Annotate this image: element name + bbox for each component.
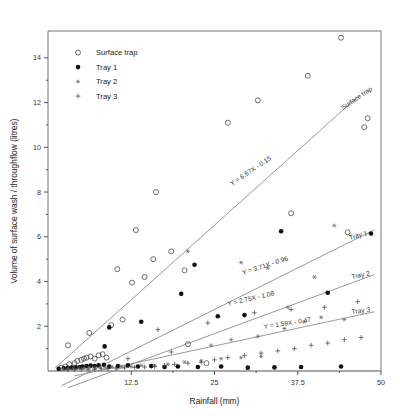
data-point [133,228,138,233]
data-point [239,261,243,265]
data-point [259,351,264,356]
data-point [339,35,344,40]
data-point [332,224,336,228]
data-point [107,325,112,330]
y-axis-title: Volume of surface wash / throughflow (li… [9,118,19,283]
x-tick-label: 37.5 [291,378,305,387]
equation-label: Y = 2.75X - 1.08 [227,289,275,307]
data-point [151,257,156,262]
data-point [362,125,367,130]
data-point [185,361,190,366]
data-point [225,120,230,125]
data-point [325,290,330,295]
x-tick-label: 50 [377,378,385,387]
x-axis-title: Rainfall (mm) [190,396,240,406]
series-tray-1 [56,229,373,371]
data-point [369,231,374,236]
data-point [182,268,187,273]
data-point [76,65,81,70]
line-end-label: Surface trap [340,85,375,112]
data-point [339,364,344,369]
data-point [199,360,204,365]
data-point [229,338,233,342]
legend-label: Tray 1 [96,63,117,72]
data-point [365,116,370,121]
data-point [179,292,184,297]
data-point [219,364,224,369]
y-tick-label: 2 [37,322,41,331]
data-point [155,327,160,332]
data-point [246,365,251,370]
data-point [153,190,158,195]
equation-label: Y = 3.71X - 0.96 [241,254,289,276]
data-point [242,353,247,358]
x-tick-label: 25 [211,378,219,387]
scatter-chart: 246810121412.52537.550Rainfall (mm)Volum… [0,0,400,416]
data-point [205,321,210,326]
regression-line-tray-1 [61,230,374,386]
data-point [275,348,280,353]
data-point [192,262,197,267]
legend-label: Surface trap [96,48,137,57]
data-point [120,317,125,322]
data-point [272,365,277,370]
legend-label: Tray 2 [96,77,117,86]
line-end-label: Tray 1 [348,229,368,242]
data-point [225,355,230,360]
data-point [255,98,260,103]
data-point [104,355,109,360]
data-point [289,307,294,312]
y-tick-label: 12 [33,98,41,107]
data-point [126,356,131,361]
data-point [76,80,80,84]
data-point [279,229,284,234]
data-point [239,356,243,360]
data-point [219,357,223,361]
y-tick-label: 8 [37,188,41,197]
data-point [142,275,147,280]
data-point [169,249,174,254]
data-point [342,337,347,342]
data-point [355,299,360,304]
data-point [65,343,70,348]
legend: Surface trapTray 1Tray 2Tray 3 [76,48,138,101]
data-point [305,73,310,78]
y-tick-label: 10 [33,143,41,152]
data-point [136,364,141,369]
data-point [212,357,217,362]
regression-line-surface-trap [55,97,358,369]
data-point [312,275,316,279]
data-point [256,334,260,338]
data-point [176,364,181,369]
y-tick-label: 6 [37,232,41,241]
y-tick-label: 14 [33,53,41,62]
data-point [129,280,134,285]
data-point [319,315,323,319]
data-point [252,310,257,315]
data-point [87,330,92,335]
data-point [322,305,327,310]
data-point [139,319,144,324]
data-point [242,313,247,318]
data-point [56,366,61,371]
data-point [359,335,364,340]
y-tick-label: 4 [37,277,41,286]
data-point [292,346,297,351]
legend-label: Tray 3 [96,92,117,101]
data-point [289,211,294,216]
data-point [115,267,120,272]
data-point [204,361,209,366]
data-point [282,327,286,331]
data-point [216,314,221,319]
data-point [102,344,107,349]
data-point [126,363,131,368]
equation-label: Y = 1.59X - 0.47 [263,316,312,330]
data-point [149,364,154,369]
data-point [325,341,330,346]
series-tray-2 [60,224,346,371]
data-point [76,94,81,99]
x-tick-label: 12.5 [124,378,138,387]
chart-figure: 246810121412.52537.550Rainfall (mm)Volum… [0,0,400,416]
data-point [76,50,81,55]
equation-label: Y = 6.67X - 0.15 [229,154,273,187]
